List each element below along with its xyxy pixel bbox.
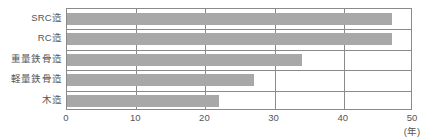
- xtick-label-4: 40: [338, 112, 349, 123]
- x-axis-tick-labels: 0 10 20 30 40 50: [0, 112, 431, 126]
- category-label-0: SRC造: [0, 8, 62, 28]
- category-label-4: 木造: [0, 90, 62, 110]
- category-label-2: 重量鉄骨造: [0, 49, 62, 69]
- bar-chart: SRC造 RC造 重量鉄骨造 軽量鉄骨造 木造: [0, 0, 431, 140]
- category-label-3: 軽量鉄骨造: [0, 69, 62, 89]
- xtick-label-5: 50: [407, 112, 418, 123]
- plot-area: [66, 8, 412, 110]
- xtick-label-2: 20: [199, 112, 210, 123]
- bar-wood: [67, 95, 219, 107]
- bar-series: [67, 9, 411, 109]
- x-axis-unit-label: (年): [404, 124, 420, 138]
- bar-light-steel: [67, 74, 254, 86]
- bar-src: [67, 13, 392, 25]
- category-label-1: RC造: [0, 28, 62, 48]
- xtick-label-1: 10: [130, 112, 141, 123]
- bar-rc: [67, 33, 392, 45]
- bar-heavy-steel: [67, 54, 302, 66]
- xtick-label-3: 30: [268, 112, 279, 123]
- xtick-label-0: 0: [63, 112, 68, 123]
- category-axis-labels: SRC造 RC造 重量鉄骨造 軽量鉄骨造 木造: [0, 8, 62, 110]
